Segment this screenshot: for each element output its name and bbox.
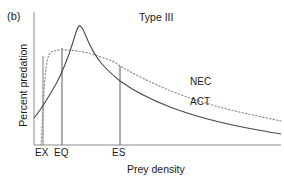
series-label-nec: NEC — [190, 77, 211, 87]
y-axis-label: Percent predation — [18, 30, 29, 140]
figure-panel: (b) Type III Percent predation Prey dens… — [0, 0, 284, 181]
panel-label: (b) — [7, 11, 20, 22]
x-tick-label-ex: EX — [35, 148, 48, 158]
x-tick-label-es: ES — [112, 148, 125, 158]
series-label-act: ACT — [190, 97, 210, 107]
series-curve-nec — [41, 50, 281, 145]
series-curve-act — [34, 26, 281, 134]
chart-title: Type III — [139, 12, 173, 23]
x-axis-label: Prey density — [127, 164, 185, 175]
x-tick-label-eq: EQ — [54, 148, 68, 158]
